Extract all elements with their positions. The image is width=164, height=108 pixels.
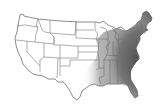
- us-map: [0, 0, 164, 108]
- us-map-svg: [0, 0, 164, 108]
